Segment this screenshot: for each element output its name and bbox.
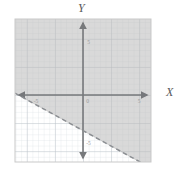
inequality-graph-figure: Y X xyxy=(0,0,182,173)
origin-tick-label: 0 xyxy=(86,98,89,104)
y-tick-label-pos5: 5 xyxy=(87,39,90,45)
x-tick-label-pos5: 5 xyxy=(138,98,141,104)
x-tick-label-neg5: -5 xyxy=(34,98,39,104)
y-tick-label-neg5: -5 xyxy=(86,140,91,146)
plot-area: -5 0 5 5 -5 xyxy=(0,0,182,173)
